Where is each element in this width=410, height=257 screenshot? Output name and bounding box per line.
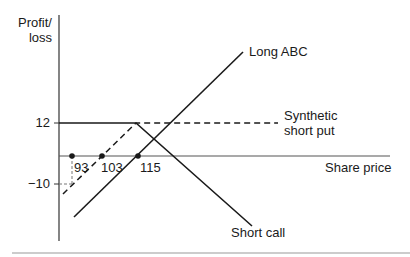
- series-label-long-abc: Long ABC: [249, 44, 308, 59]
- point-93: [69, 153, 75, 159]
- x-axis-label: Share price: [325, 160, 391, 175]
- y-axis-label-line1: Profit/: [12, 15, 52, 30]
- point-label-103: 103: [101, 160, 123, 175]
- y-axis-label-line2: loss: [12, 30, 52, 45]
- series-long-abc: [74, 52, 243, 217]
- point-115: [135, 153, 141, 159]
- point-label-115: 115: [140, 160, 161, 175]
- series-label-synthetic-short-put: Synthetic short put: [284, 108, 337, 138]
- point-label-93: 93: [74, 160, 88, 175]
- tick-label-neg10: −10: [14, 176, 50, 191]
- synthetic-label-line2: short put: [284, 123, 337, 138]
- point-103: [99, 153, 105, 159]
- y-axis-label: Profit/ loss: [12, 15, 52, 45]
- payoff-chart: Profit/ loss 12 −10 93 103 115 Long ABC …: [0, 0, 410, 257]
- tick-label-12: 12: [14, 115, 50, 130]
- synthetic-label-line1: Synthetic: [284, 108, 337, 123]
- chart-canvas: [0, 0, 410, 257]
- series-synthetic-short-put: [63, 123, 278, 194]
- series-label-short-call: Short call: [231, 225, 285, 240]
